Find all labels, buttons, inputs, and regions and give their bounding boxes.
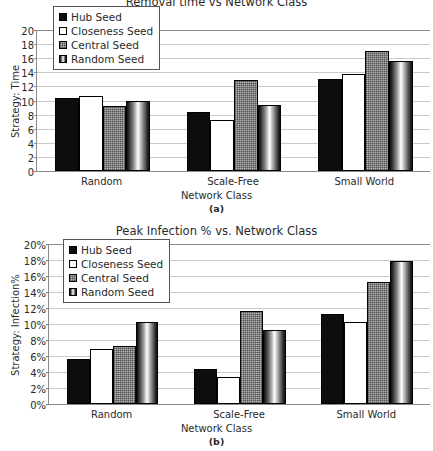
bar-closeness-scale-free — [210, 120, 234, 171]
legend-item-central: Central Seed — [59, 38, 153, 52]
white-square-icon — [59, 27, 67, 35]
legend-item-random: Random Seed — [69, 285, 163, 299]
white-square-icon — [69, 260, 77, 268]
y-axis-tick-label: 18% — [24, 256, 46, 267]
y-axis-tick-mark — [34, 157, 37, 158]
y-axis-tick-label: 14% — [24, 288, 46, 299]
bar-random-scale-free — [258, 105, 282, 171]
bar-central-small-world — [367, 282, 390, 404]
bar-random-small-world — [390, 261, 413, 404]
legend-item-label: Hub Seed — [71, 11, 122, 23]
bar-hub-scale-free — [194, 369, 217, 404]
legend-item-closeness: Closeness Seed — [59, 24, 153, 38]
legend-item-label: Hub Seed — [81, 244, 132, 256]
x-axis-label-b: Network Class — [0, 423, 433, 434]
y-axis-tick-label: 16% — [24, 272, 46, 283]
bar-random-random — [136, 322, 159, 404]
y-axis-tick-label: 0 — [28, 167, 34, 178]
legend-item-hub: Hub Seed — [59, 10, 153, 24]
y-axis-tick-label: 4 — [28, 138, 34, 149]
figure-a: Removal time vs Network Class Strategy: … — [0, 0, 433, 215]
bar-central-random — [113, 346, 136, 404]
y-axis-tick-mark — [46, 244, 49, 245]
legend-a: Hub SeedCloseness SeedCentral SeedRandom… — [53, 6, 160, 70]
y-axis-tick-label: 20 — [21, 26, 34, 37]
x-axis-category-label: Random — [81, 176, 122, 187]
figure-b: Peak Infection % vs. Network Class Strat… — [0, 215, 433, 451]
bar-random-random — [126, 101, 150, 172]
y-axis-tick-mark — [34, 143, 37, 144]
y-axis-tick-label: 12% — [24, 304, 46, 315]
y-axis-tick-mark — [34, 58, 37, 59]
bar-central-scale-free — [234, 80, 258, 171]
y-axis-tick-mark — [46, 276, 49, 277]
x-axis-label-a: Network Class — [0, 190, 433, 201]
gray-textured-square-icon — [59, 41, 67, 49]
x-axis-category-label: Scale-Free — [207, 176, 259, 187]
y-axis-tick-mark — [46, 388, 49, 389]
gradient-square-icon — [69, 288, 77, 296]
y-axis-tick-mark — [46, 260, 49, 261]
y-axis-tick-label: 12 — [21, 82, 34, 93]
y-axis-tick-mark — [34, 44, 37, 45]
bar-hub-small-world — [321, 314, 344, 404]
y-axis-tick-mark — [46, 404, 49, 405]
x-axis-category-label: Random — [91, 409, 132, 420]
y-axis-label-b: Strategy: Infection% — [10, 245, 21, 405]
figure-caption-a: (a) — [0, 203, 433, 214]
y-axis-tick-mark — [34, 72, 37, 73]
x-axis-category-label: Small World — [335, 176, 395, 187]
figure-caption-b: (b) — [0, 436, 433, 447]
bar-hub-small-world — [318, 79, 342, 171]
legend-item-hub: Hub Seed — [69, 243, 163, 257]
x-axis-category-label: Scale-Free — [213, 409, 265, 420]
y-axis-tick-label: 0% — [30, 400, 46, 411]
bar-hub-scale-free — [187, 112, 211, 171]
y-axis-tick-mark — [34, 101, 37, 102]
y-axis-tick-mark — [46, 356, 49, 357]
y-axis-tick-label: 8% — [30, 336, 46, 347]
y-axis-tick-mark — [46, 324, 49, 325]
solid-black-square-icon — [59, 13, 67, 21]
y-axis-tick-mark — [46, 372, 49, 373]
y-axis-tick-label: 14 — [21, 68, 34, 79]
y-axis-tick-label: 8 — [28, 110, 34, 121]
solid-black-square-icon — [69, 246, 77, 254]
y-axis-tick-label: 2 — [28, 152, 34, 163]
bar-closeness-small-world — [344, 322, 367, 404]
y-axis-tick-mark — [34, 115, 37, 116]
legend-item-label: Central Seed — [71, 39, 139, 51]
bar-hub-random — [67, 359, 90, 404]
y-axis-tick-mark — [34, 30, 37, 31]
bar-central-scale-free — [240, 311, 263, 404]
legend-item-label: Random Seed — [71, 53, 144, 65]
y-axis-tick-label: 16 — [21, 54, 34, 65]
bar-closeness-random — [79, 96, 103, 171]
y-axis-tick-label: 6% — [30, 352, 46, 363]
bar-closeness-small-world — [342, 74, 366, 171]
bar-closeness-random — [90, 349, 113, 404]
y-axis-tick-mark — [46, 340, 49, 341]
bar-random-small-world — [389, 61, 413, 171]
bar-random-scale-free — [263, 330, 286, 404]
legend-item-closeness: Closeness Seed — [69, 257, 163, 271]
y-axis-tick-mark — [46, 292, 49, 293]
y-axis-tick-mark — [34, 129, 37, 130]
legend-item-label: Closeness Seed — [71, 25, 153, 37]
bar-closeness-scale-free — [217, 377, 240, 404]
y-axis-tick-mark — [34, 86, 37, 87]
gray-textured-square-icon — [69, 274, 77, 282]
y-axis-label-a: Strategy: Time — [10, 31, 21, 172]
chart-title-b: Peak Infection % vs. Network Class — [0, 224, 433, 238]
y-axis-tick-mark — [46, 308, 49, 309]
y-axis-tick-label: 2% — [30, 384, 46, 395]
x-axis-category-label: Small World — [337, 409, 397, 420]
y-axis-tick-label: 10 — [21, 96, 34, 107]
legend-item-central: Central Seed — [69, 271, 163, 285]
legend-item-label: Random Seed — [81, 286, 154, 298]
bar-hub-random — [55, 98, 79, 171]
y-axis-tick-label: 4% — [30, 368, 46, 379]
y-axis-tick-label: 10% — [24, 320, 46, 331]
y-axis-tick-label: 18 — [21, 40, 34, 51]
legend-item-random: Random Seed — [59, 52, 153, 66]
